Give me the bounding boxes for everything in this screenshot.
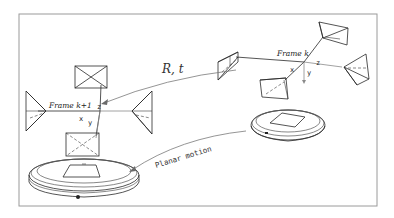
robot-k1-icon <box>29 159 139 199</box>
camera-top-k1-icon <box>75 66 107 88</box>
diagram-canvas: Frame k z x y <box>0 0 394 218</box>
camera-top-k-icon <box>319 22 348 45</box>
camera-bottom-k-icon <box>260 78 288 99</box>
camera-left-k1-icon <box>26 91 46 131</box>
frame-k-axis-x: x <box>290 66 294 74</box>
transform-arrow: R, t <box>101 62 236 105</box>
frame-k1-axis-x: x <box>79 115 83 123</box>
transform-label: R, t <box>161 62 184 76</box>
camera-left-k-icon <box>218 52 238 80</box>
planar-motion-arrow: Planar motion <box>129 131 246 172</box>
frame-k1-axis-z: z <box>97 103 101 111</box>
planar-motion-label: Planar motion <box>154 144 213 170</box>
camera-bottom-k1-icon <box>66 133 99 156</box>
frame-k1-axis-y: y <box>88 119 92 127</box>
frame-k-axis-z: z <box>316 59 320 67</box>
frame-k1-label: Frame k+1 <box>48 101 92 110</box>
camera-right-k1-icon <box>132 91 152 134</box>
frame-k-label: Frame k <box>276 49 309 58</box>
frame-k-axis-y: y <box>307 69 311 77</box>
camera-right-k-icon <box>344 54 369 85</box>
frame-k-group: Frame k z x y <box>218 22 369 99</box>
robot-k-icon <box>251 110 325 141</box>
frame-k1-group: Frame k+1 z x y <box>26 66 152 156</box>
